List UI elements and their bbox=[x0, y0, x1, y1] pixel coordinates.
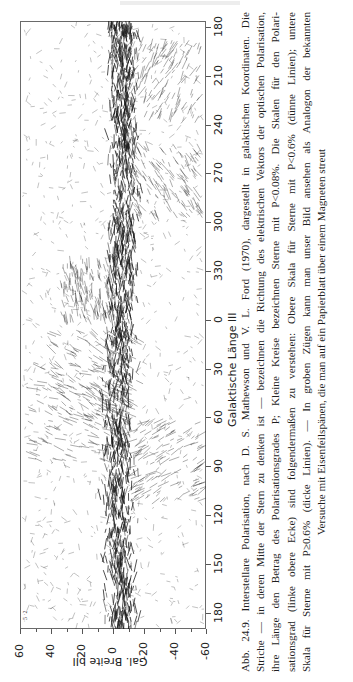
latitude-tick bbox=[51, 629, 52, 634]
latitude-tick bbox=[144, 629, 145, 634]
polarization-vectors bbox=[20, 21, 206, 629]
latitude-tick bbox=[20, 629, 21, 634]
longitude-tick-label: 0 bbox=[213, 307, 225, 333]
longitude-tick-label: 30 bbox=[213, 356, 225, 382]
longitude-tick bbox=[206, 271, 211, 272]
latitude-tick-label: -40 bbox=[168, 636, 182, 666]
latitude-minor-tick bbox=[191, 629, 192, 632]
latitude-minor-tick bbox=[129, 629, 130, 632]
caption-line: Versuche mit Eisenfeilspänen, die man au… bbox=[314, 12, 329, 672]
longitude-tick-label: 90 bbox=[213, 453, 225, 479]
latitude-tick-label: 60 bbox=[13, 636, 27, 666]
polarization-scale-key: ·5 ·2 bbox=[22, 604, 34, 622]
latitude-minor-tick bbox=[160, 629, 161, 632]
caption-line: Skala für Sterne mit P≥0.6% (dicke Linie… bbox=[299, 12, 314, 672]
caption-text: Abb. 24.9. Interstellare Polarisation, n… bbox=[238, 12, 350, 672]
caption-line: ihre Länge den Betrag des Polarisationsg… bbox=[268, 12, 283, 672]
longitude-tick-label: 180 bbox=[213, 600, 225, 626]
longitude-tick bbox=[206, 564, 211, 565]
longitude-tick bbox=[206, 222, 211, 223]
polarization-figure: ·5 ·2 1802102402703003300306090120150180… bbox=[0, 0, 240, 682]
longitude-tick-label: 270 bbox=[213, 160, 225, 186]
latitude-minor-tick bbox=[36, 629, 37, 632]
latitude-minor-tick bbox=[67, 629, 68, 632]
longitude-tick bbox=[206, 27, 211, 28]
longitude-tick bbox=[206, 417, 211, 418]
latitude-tick bbox=[206, 629, 207, 634]
longitude-tick bbox=[206, 466, 211, 467]
longitude-tick bbox=[206, 320, 211, 321]
latitude-tick bbox=[175, 629, 176, 634]
latitude-tick-label: -60 bbox=[199, 636, 213, 666]
longitude-tick bbox=[206, 369, 211, 370]
caption-line: sationsgrad (linke obere Ecke) sind folg… bbox=[284, 12, 299, 672]
longitude-tick bbox=[206, 613, 211, 614]
longitude-tick bbox=[206, 125, 211, 126]
latitude-tick bbox=[113, 629, 114, 634]
latitude-tick-label: 40 bbox=[44, 636, 58, 666]
longitude-tick-label: 240 bbox=[213, 112, 225, 138]
longitude-tick-label: 180 bbox=[213, 14, 225, 40]
longitude-tick-label: 120 bbox=[213, 502, 225, 528]
latitude-tick bbox=[82, 629, 83, 634]
latitude-minor-tick bbox=[98, 629, 99, 632]
figure-caption: Abb. 24.9. Interstellare Polarisation, n… bbox=[238, 12, 350, 672]
longitude-tick bbox=[206, 76, 211, 77]
longitude-tick-label: 210 bbox=[213, 63, 225, 89]
caption-line: Abb. 24.9. Interstellare Polarisation, n… bbox=[238, 12, 253, 672]
caption-line: Striche — in deren Mitte der Stern zu de… bbox=[253, 12, 268, 672]
longitude-tick-label: 330 bbox=[213, 258, 225, 284]
longitude-tick bbox=[206, 173, 211, 174]
longitude-tick-label: 300 bbox=[213, 209, 225, 235]
longitude-tick-label: 60 bbox=[213, 404, 225, 430]
longitude-tick bbox=[206, 515, 211, 516]
longitude-tick-label: 150 bbox=[213, 551, 225, 577]
latitude-axis-title: Gal. Breite bII bbox=[70, 653, 150, 669]
